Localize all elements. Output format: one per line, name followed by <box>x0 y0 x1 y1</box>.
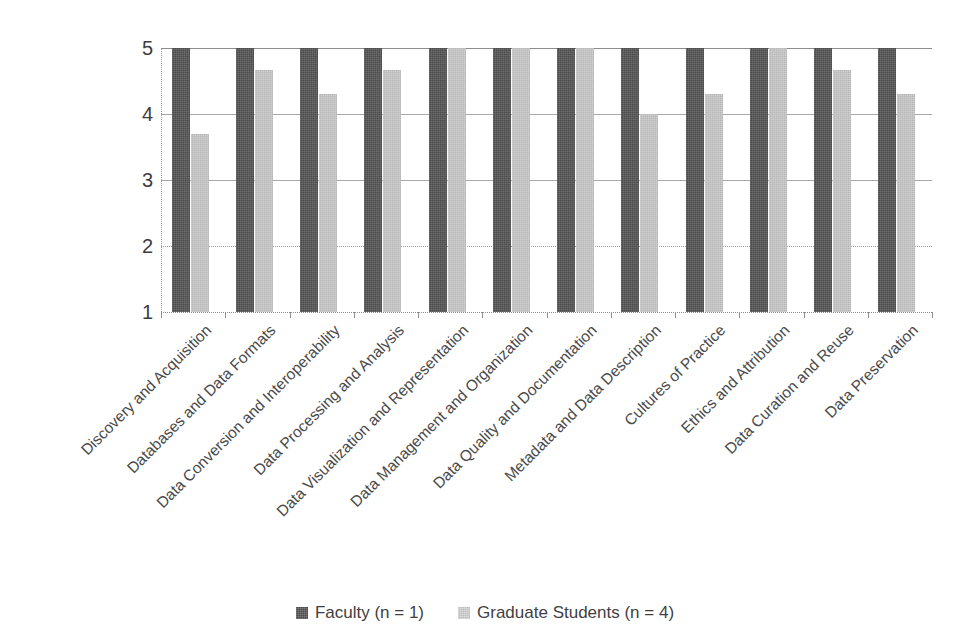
legend-swatch-icon <box>458 607 470 619</box>
x-axis-label: Metadata and Data Description <box>502 322 664 484</box>
bar-group <box>482 48 546 312</box>
x-tick-mark <box>482 312 483 318</box>
x-axis-label: Data Conversion and Interoperability <box>154 322 343 511</box>
bar-graduate[interactable] <box>576 48 594 312</box>
y-tick-label-2: 2 <box>127 236 153 256</box>
x-axis-label: Data Quality and Documentation <box>430 322 600 492</box>
x-axis-label: Databases and Data Formats <box>124 322 278 476</box>
bar-graduate[interactable] <box>705 94 723 312</box>
bar-group <box>804 48 868 312</box>
bar-faculty[interactable] <box>236 48 254 312</box>
x-axis-label: Discovery and Acquisition <box>78 322 214 458</box>
x-tick-mark <box>675 312 676 318</box>
x-tick-mark <box>225 312 226 318</box>
x-tick-mark <box>547 312 548 318</box>
bar-group <box>675 48 739 312</box>
y-tick-label-5: 5 <box>127 38 153 58</box>
x-axis-label: Ethics and Attribution <box>678 322 792 436</box>
bar-faculty[interactable] <box>172 48 190 312</box>
legend-item-faculty[interactable]: Faculty (n = 1) <box>296 604 424 621</box>
bar-group <box>868 48 932 312</box>
bar-group <box>611 48 675 312</box>
bar-group <box>418 48 482 312</box>
bar-graduate[interactable] <box>897 94 915 312</box>
plot-area <box>161 48 932 312</box>
bar-graduate[interactable] <box>319 94 337 312</box>
x-axis-label: Data Management and Organization <box>348 322 536 510</box>
x-tick-mark <box>611 312 612 318</box>
x-tick-mark <box>290 312 291 318</box>
bar-graduate[interactable] <box>769 48 787 312</box>
x-tick-mark <box>739 312 740 318</box>
legend-item-graduate-students[interactable]: Graduate Students (n = 4) <box>458 604 674 621</box>
x-axis-label: Data Visualization and Representation <box>274 322 472 520</box>
chart-legend: Faculty (n = 1)Graduate Students (n = 4) <box>0 604 970 621</box>
x-tick-mark <box>868 312 869 318</box>
bar-faculty[interactable] <box>557 48 575 312</box>
bar-faculty[interactable] <box>686 48 704 312</box>
bar-faculty[interactable] <box>429 48 447 312</box>
x-axis-label: Data Preservation <box>822 322 921 421</box>
x-tick-mark <box>932 312 933 318</box>
legend-swatch-icon <box>296 607 308 619</box>
bar-graduate[interactable] <box>448 48 466 312</box>
bar-faculty[interactable] <box>300 48 318 312</box>
y-tick-label-1: 1 <box>127 302 153 322</box>
bar-group <box>354 48 418 312</box>
bar-faculty[interactable] <box>621 48 639 312</box>
x-tick-mark <box>804 312 805 318</box>
bar-group <box>290 48 354 312</box>
bar-faculty[interactable] <box>493 48 511 312</box>
bar-graduate[interactable] <box>512 48 530 312</box>
bar-graduate[interactable] <box>640 114 658 312</box>
x-tick-mark <box>354 312 355 318</box>
x-axis-label: Data Processing and Analysis <box>251 322 407 478</box>
legend-label: Graduate Students (n = 4) <box>477 604 674 621</box>
x-axis-label: Data Curation and Reuse <box>722 322 857 457</box>
y-tick-label-3: 3 <box>127 170 153 190</box>
bar-faculty[interactable] <box>750 48 768 312</box>
legend-label: Faculty (n = 1) <box>315 604 424 621</box>
y-tick-label-4: 4 <box>127 104 153 124</box>
x-tick-mark <box>161 312 162 318</box>
bar-graduate[interactable] <box>191 134 209 312</box>
bar-graduate[interactable] <box>255 70 273 312</box>
bar-graduate[interactable] <box>383 70 401 312</box>
bar-faculty[interactable] <box>878 48 896 312</box>
bar-group <box>161 48 225 312</box>
bar-faculty[interactable] <box>364 48 382 312</box>
x-axis-label: Cultures of Practice <box>621 322 728 429</box>
x-tick-mark <box>418 312 419 318</box>
bar-group <box>225 48 289 312</box>
bar-faculty[interactable] <box>814 48 832 312</box>
y-axis-tick-labels: 12345 <box>125 48 153 312</box>
bar-chart: 12345 Discovery and AcquisitionDatabases… <box>0 0 970 639</box>
bar-group <box>739 48 803 312</box>
bar-graduate[interactable] <box>833 70 851 312</box>
bar-group <box>547 48 611 312</box>
